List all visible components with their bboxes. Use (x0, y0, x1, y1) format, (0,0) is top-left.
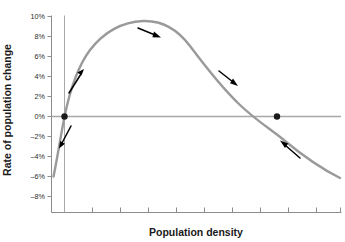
stable-equilibrium-point (274, 113, 280, 119)
y-tick-label-0: 0% (35, 112, 46, 121)
y-tick-label-m2: –2% (31, 132, 46, 141)
y-tick-label-4: 4% (35, 72, 46, 81)
y-tick-label-8: 8% (35, 32, 46, 41)
y-tick-label-m6: –6% (31, 172, 46, 181)
y-tick-label-10: 10% (31, 12, 46, 21)
population-growth-rate-chart: Rate of population change Population den… (0, 0, 345, 242)
y-tick-label-m4: –4% (31, 152, 46, 161)
y-tick-label-6: 6% (35, 52, 46, 61)
chart-figure: Rate of population change Population den… (0, 0, 345, 242)
y-tick-label-2: 2% (35, 92, 46, 101)
y-tick-label-m8: –8% (31, 192, 46, 201)
unstable-equilibrium-point (61, 113, 67, 119)
y-axis-title: Rate of population change (1, 44, 13, 176)
x-axis-title: Population density (149, 226, 243, 238)
